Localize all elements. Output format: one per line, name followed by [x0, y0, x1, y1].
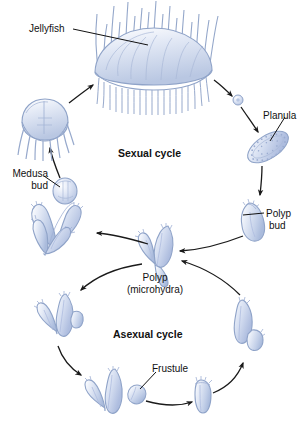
stage-polyp-lateral-bud-left — [34, 291, 83, 336]
stage-egg — [233, 95, 243, 105]
arrow-medusa-to-jellyfish — [69, 85, 93, 103]
label-frustule: Frustule — [152, 363, 188, 375]
stage-jellyfish — [95, 1, 218, 115]
label-medusa-bud-line2: bud — [4, 180, 48, 192]
stage-young-medusa — [18, 99, 74, 161]
stage-frustule — [125, 382, 149, 407]
label-polyp-bud-line1: Polyp — [266, 208, 291, 220]
stage-polyp-frustule-release — [85, 366, 122, 413]
label-polyp-bud-line2: bud — [269, 220, 286, 232]
stage-planula — [242, 125, 293, 170]
label-asexual-cycle: Asexual cycle — [113, 329, 182, 341]
label-jellyfish: Jellyfish — [29, 23, 65, 35]
stage-polyp-bud — [241, 199, 264, 241]
jellyfish-life-cycle-diagram — [0, 0, 308, 422]
label-polyp-line1: Polyp — [114, 272, 196, 284]
stage-simple-polyp — [195, 376, 212, 413]
arrow-simplepolyp-to-right — [213, 363, 243, 393]
label-planula: Planula — [263, 110, 296, 122]
label-polyp-line2: (microhydra) — [114, 284, 196, 296]
jellyfish-bell — [95, 28, 212, 85]
label-medusa-bud-line1: Medusa — [4, 168, 48, 180]
arrow-polypbud-to-polyp — [180, 236, 243, 251]
stage-polyp-lateral-bud-right — [234, 297, 265, 350]
label-sexual-cycle: Sexual cycle — [118, 148, 181, 160]
arrow-egg-to-planula — [241, 107, 258, 132]
arrow-left-to-bottomleft — [58, 346, 81, 375]
frustule-leader-line — [140, 372, 156, 389]
arrow-planula-to-polypbud — [260, 166, 262, 195]
arrow-jellyfish-to-egg — [214, 80, 232, 96]
arrow-frustule-to-simplepolyp — [146, 401, 192, 405]
medusa-bud-body — [53, 178, 77, 204]
